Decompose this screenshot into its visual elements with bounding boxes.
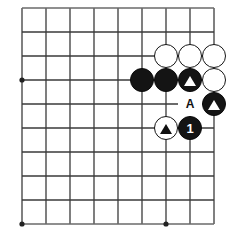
white-stone[interactable] — [202, 68, 226, 92]
white-stone[interactable] — [154, 116, 178, 140]
white-stone[interactable] — [202, 44, 226, 68]
stone-move-number: 1 — [186, 122, 193, 135]
star-point — [19, 221, 24, 226]
black-stone[interactable]: 1 — [178, 116, 202, 140]
go-board-diagram: A1 — [0, 0, 242, 244]
white-stone[interactable] — [154, 44, 178, 68]
black-stone[interactable] — [154, 68, 178, 92]
triangle-marker-icon — [160, 124, 172, 134]
triangle-marker-icon — [184, 76, 196, 86]
star-point — [163, 221, 168, 226]
triangle-marker-icon — [208, 100, 220, 110]
star-point — [19, 77, 24, 82]
board-grid — [0, 0, 242, 244]
black-stone[interactable] — [178, 68, 202, 92]
board-point-label[interactable]: A — [178, 92, 202, 116]
black-stone[interactable] — [202, 92, 226, 116]
white-stone[interactable] — [178, 44, 202, 68]
black-stone[interactable] — [130, 68, 154, 92]
